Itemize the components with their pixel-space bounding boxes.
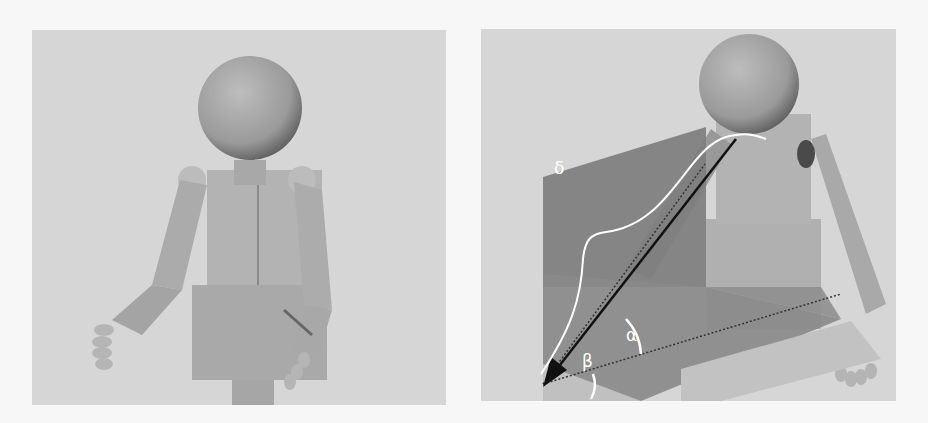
robot-render-right: δ α β [481,29,896,401]
robot-illustration-right [481,29,896,401]
alpha-label: α [626,325,637,345]
robot-render-left [32,30,446,405]
robot-illustration-left [32,30,446,405]
delta-label: δ [554,158,564,178]
beta-label: β [582,351,593,371]
